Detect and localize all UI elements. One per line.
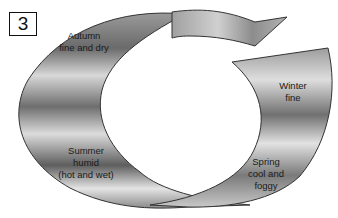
autumn-title: Autumn [44,30,124,42]
spring-title: Spring [238,156,294,168]
season-label-spring: Spring cool and foggy [238,156,294,192]
spring-description-2: foggy [238,180,294,192]
season-label-summer: Summer humid (hot and wet) [48,145,124,181]
season-label-winter: Winter fine [268,80,318,104]
summer-title: Summer [48,145,124,157]
winter-title: Winter [268,80,318,92]
diagram-canvas: 3 Autumn fine and dry Winter fine Spring… [0,0,338,218]
arrow-autumn-to-winter [172,10,287,46]
figure-number-badge: 3 [9,12,37,36]
summer-description-1: humid [48,157,124,169]
season-label-autumn: Autumn fine and dry [44,30,124,54]
spring-description-1: cool and [238,168,294,180]
winter-description: fine [268,92,318,104]
summer-description-2: (hot and wet) [48,169,124,181]
autumn-description: fine and dry [44,42,124,54]
